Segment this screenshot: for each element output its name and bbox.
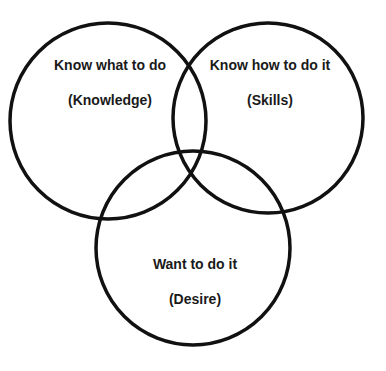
knowledge-subtitle: (Knowledge)	[46, 91, 174, 109]
label-skills: Know how to do it (Skills)	[200, 56, 340, 109]
label-knowledge: Know what to do (Knowledge)	[46, 56, 174, 109]
venn-diagram: Know what to do (Knowledge) Know how to …	[0, 0, 386, 371]
desire-title: Want to do it	[153, 256, 237, 272]
circle-desire	[96, 151, 290, 345]
label-desire: Want to do it (Desire)	[120, 255, 270, 308]
skills-title: Know how to do it	[210, 57, 331, 73]
knowledge-title: Know what to do	[54, 57, 166, 73]
desire-subtitle: (Desire)	[120, 290, 270, 308]
skills-subtitle: (Skills)	[200, 91, 340, 109]
circle-knowledge	[10, 23, 206, 219]
